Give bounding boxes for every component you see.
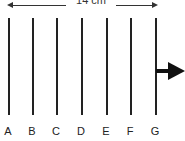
label-c: C	[50, 125, 62, 137]
right-arrow-icon	[168, 62, 185, 80]
label-e: E	[100, 125, 112, 137]
line-g	[155, 18, 157, 115]
label-a: A	[2, 125, 14, 137]
label-d: D	[75, 125, 87, 137]
label-f: F	[124, 125, 136, 137]
line-a	[8, 18, 10, 115]
dimension-arrowhead-right-icon	[152, 2, 158, 8]
line-f	[130, 18, 132, 115]
line-d	[81, 18, 83, 115]
dimension-arrowhead-left-icon	[7, 2, 13, 8]
line-b	[32, 18, 34, 115]
dimension-label: 14 cm	[66, 0, 116, 6]
line-c	[56, 18, 58, 115]
label-b: B	[26, 125, 38, 137]
label-g: G	[149, 125, 161, 137]
line-e	[106, 18, 108, 115]
